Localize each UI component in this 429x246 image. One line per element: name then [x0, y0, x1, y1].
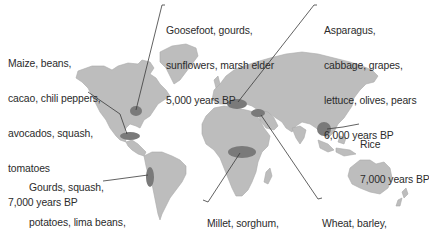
label-line: Millet, sorghum,	[207, 218, 308, 230]
label-sub-saharan-africa: Millet, sorghum, yams, oil palm, coffee …	[207, 195, 308, 246]
central-america-landmass	[126, 140, 146, 156]
origin-sub-saharan-africa	[228, 146, 256, 158]
label-years: 5,000 years BP	[166, 95, 274, 107]
madagascar-landmass	[264, 168, 272, 184]
label-line: cabbage, grapes,	[324, 60, 417, 72]
label-years: 7,000 years BP	[360, 174, 429, 186]
label-line: cacao, chili peppers,	[8, 93, 101, 105]
label-line: Rice	[360, 139, 429, 151]
label-fertile-crescent: Wheat, barley, lentils, chickpeas, dates…	[322, 195, 425, 246]
label-andes: Gourds, squash, potatoes, lima beans, qu…	[29, 159, 126, 246]
label-line: Gourds, squash,	[29, 182, 126, 194]
label-line: Asparagus,	[324, 25, 417, 37]
india-landmass	[292, 126, 306, 144]
label-line: avocados, squash,	[8, 128, 101, 140]
label-eastern-north-america: Goosefoot, gourds, sunflowers, marsh eld…	[166, 2, 274, 130]
label-line: potatoes, lima beans,	[29, 217, 126, 229]
label-line: sunflowers, marsh elder	[166, 60, 274, 72]
label-line: Goosefoot, gourds,	[166, 25, 274, 37]
origin-andes	[146, 167, 154, 187]
domestication-map: Maize, beans, cacao, chili peppers, avoc…	[0, 0, 429, 246]
label-line: Wheat, barley,	[322, 218, 425, 230]
origin-mesoamerica	[120, 132, 140, 140]
label-line: lettuce, olives, pears	[324, 95, 417, 107]
label-line: Maize, beans,	[8, 58, 101, 70]
origin-eastern-north-america	[130, 106, 142, 116]
